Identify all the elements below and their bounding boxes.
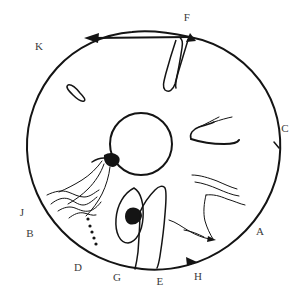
finger-feature-f [163,38,188,91]
region-label-b[interactable]: B [26,228,34,239]
dot-series [86,217,97,245]
region-label-a[interactable]: A [256,226,264,237]
region-label-k[interactable]: K [35,41,43,52]
diagram-canvas [0,0,306,307]
region-label-f[interactable]: F [184,12,190,23]
hook-feature-c [190,117,239,144]
region-label-d[interactable]: D [74,262,82,273]
bean-feature-k [67,85,85,101]
inner-core-circle [110,113,172,175]
wave-lines-lower-right [169,175,245,242]
core-blob-marker [92,153,120,167]
region-label-j[interactable]: J [20,207,24,218]
region-label-e[interactable]: E [157,276,164,287]
region-label-h[interactable]: H [194,271,202,282]
spire-feature-e [135,186,166,269]
wave-lines-lower-left [47,161,110,218]
outer-boundary-circle [27,31,280,269]
figure-root: F K C J A B D G E H [0,0,306,307]
region-label-c[interactable]: C [281,123,289,134]
rim-tick-c [274,142,279,148]
region-label-g[interactable]: G [113,272,121,283]
